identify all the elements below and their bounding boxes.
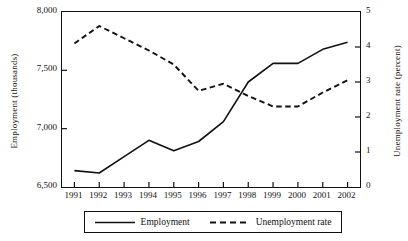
legend-label-unemployment-rate: Unemployment rate: [256, 217, 332, 227]
chart-legend: Employment Unemployment rate: [84, 211, 342, 233]
series-line-unemployment-rate: [74, 26, 347, 107]
y-axis-right-tick-label: 0: [366, 180, 371, 190]
y-axis-left-tick-label: 7,000: [37, 122, 57, 132]
y-axis-right-tick-label: 5: [366, 5, 371, 15]
y-axis-right-tick-label: 2: [366, 110, 371, 120]
plot-svg: [62, 12, 360, 187]
x-axis-tick-label: 2002: [332, 190, 362, 200]
series-line-employment: [74, 42, 347, 173]
plot-area: [61, 11, 361, 188]
chart-figure: Employment (thousands) Unemployment rate…: [0, 0, 408, 241]
y-axis-left-title: Employment (thousands): [9, 21, 19, 181]
y-axis-right-tick-label: 4: [366, 40, 371, 50]
y-axis-right-tick-label: 3: [366, 75, 371, 85]
y-axis-left-tick-label: 6,500: [37, 180, 57, 190]
legend-label-employment: Employment: [141, 217, 190, 227]
legend-line-solid-icon: [95, 218, 135, 227]
y-axis-left-tick-label: 8,000: [37, 5, 57, 15]
y-axis-right-title: Unemployment rate (percent): [392, 16, 402, 186]
y-axis-right-tick-label: 1: [366, 145, 371, 155]
legend-item-employment: Employment: [95, 217, 190, 227]
legend-line-dashed-icon: [210, 218, 250, 227]
legend-item-unemployment-rate: Unemployment rate: [210, 217, 332, 227]
y-axis-left-tick-label: 7,500: [37, 63, 57, 73]
